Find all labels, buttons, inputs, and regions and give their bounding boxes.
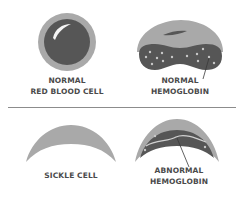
- sickle-cell-icon: [26, 125, 116, 162]
- label-normal-rbc: NORMAL RED BLOOD CELL: [17, 75, 117, 97]
- label-sickle-cell: SICKLE CELL: [21, 170, 121, 181]
- abnormal-hemoglobin-icon: [135, 119, 219, 167]
- label-normal-hemoglobin: NORMAL HEMOGLOBIN: [140, 75, 220, 97]
- normal-red-blood-cell-icon: [38, 13, 96, 71]
- normal-hemoglobin-icon: [137, 20, 223, 79]
- label-abnormal-hemoglobin: ABNORMAL HEMOGLOBIN: [139, 165, 219, 187]
